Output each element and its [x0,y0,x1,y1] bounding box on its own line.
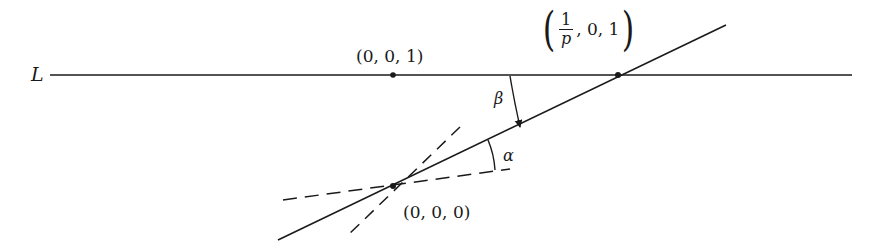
point-origin [390,183,396,189]
alpha-arc [488,140,495,170]
beta-arc [510,76,520,127]
point-1p-0-1-label: ( 1 p , 0, 1 ) [540,6,637,52]
point-0-0-1-label: (0, 0, 1) [356,48,423,65]
right-paren: ) [622,6,635,52]
origin-label: (0, 0, 0) [403,204,470,221]
dashed-line-lower [283,169,510,200]
point-1p-0-1 [615,72,621,78]
fraction-1-over-p: 1 p [559,12,573,47]
fraction-numerator: 1 [559,12,573,30]
point-0-0-1 [390,72,396,78]
line-L-label: L [31,65,44,84]
fraction-denominator: p [561,30,571,47]
beta-label: β [494,91,503,107]
alpha-label: α [503,148,514,164]
fraction-rest: , 0, 1 [576,19,619,39]
left-paren: ( [543,6,556,52]
slanted-line [278,25,726,240]
